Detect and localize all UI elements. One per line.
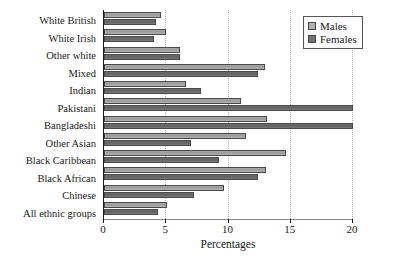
bar-chinese-females [104,192,194,198]
bar-white-british-males [104,12,161,18]
y-axis-label-bangladeshi: Bangladeshi [0,117,100,135]
x-axis-title: Percentages [103,238,353,250]
y-axis-label-chinese: Chinese [0,187,100,205]
x-tick-label-0: 0 [100,223,106,235]
bar-white-irish-males [104,29,166,35]
males-swatch-icon [308,22,316,30]
bar-group-chinese [104,185,352,200]
bar-group-black-african [104,167,352,182]
x-tick-label-10: 10 [222,223,233,235]
females-swatch-icon [308,35,316,43]
legend-label-males: Males [320,20,347,32]
x-axis-ticks: 05101520 [103,219,353,235]
bar-group-black-caribbean [104,150,352,165]
bar-pakistani-females [104,105,353,111]
bar-group-pakistani [104,98,352,113]
bar-other-asian-females [104,140,191,146]
bar-group-other-asian [104,133,352,148]
x-tick-label-5: 5 [163,223,169,235]
legend-label-females: Females [320,33,357,45]
y-axis-label-pakistani: Pakistani [0,100,100,118]
bar-all-ethnic-groups-males [104,202,167,208]
bar-mixed-females [104,71,258,77]
y-axis-label-all-ethnic-groups: All ethnic groups [0,205,100,223]
y-axis-label-other-white: Other white [0,47,100,65]
y-axis-label-other-asian: Other Asian [0,135,100,153]
bar-pakistani-males [104,98,241,104]
bar-group-indian [104,81,352,96]
bar-black-african-females [104,174,258,180]
bar-white-irish-females [104,36,154,42]
y-axis-label-black-caribbean: Black Caribbean [0,152,100,170]
bar-other-asian-males [104,133,246,139]
bar-black-african-males [104,167,266,173]
bar-mixed-males [104,64,265,70]
bar-indian-females [104,88,201,94]
bar-other-white-males [104,47,180,53]
y-axis-label-black-african: Black African [0,170,100,188]
bar-group-all-ethnic-groups [104,202,352,217]
x-tick-label-20: 20 [347,223,358,235]
legend: Males Females [303,16,363,49]
y-axis-label-white-irish: White Irish [0,30,100,48]
bar-black-caribbean-males [104,150,286,156]
bar-other-white-females [104,54,180,60]
y-axis-category-labels: White British White Irish Other white Mi… [0,12,100,217]
bar-bangladeshi-males [104,116,267,122]
bar-group-mixed [104,64,352,79]
x-tick-label-15: 15 [284,223,295,235]
bar-black-caribbean-females [104,157,219,163]
y-axis-label-white-british: White British [0,12,100,30]
y-axis-label-indian: Indian [0,82,100,100]
y-axis-label-mixed: Mixed [0,65,100,83]
bar-chinese-males [104,185,224,191]
bar-white-british-females [104,19,156,25]
bar-group-bangladeshi [104,116,352,131]
bar-bangladeshi-females [104,123,353,129]
bar-all-ethnic-groups-females [104,209,158,215]
bar-indian-males [104,81,186,87]
bar-chart: White British White Irish Other white Mi… [0,0,393,273]
legend-item-females: Females [308,32,357,45]
legend-item-males: Males [308,19,357,32]
